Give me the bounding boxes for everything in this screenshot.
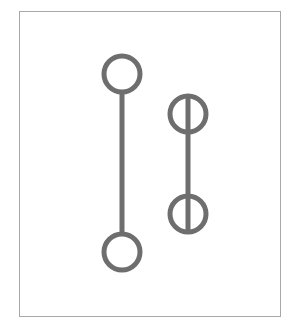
- diagram-canvas: [0, 0, 297, 333]
- left-symbol: [104, 56, 140, 270]
- right-symbol: [170, 96, 206, 232]
- left-bottom-circle: [104, 234, 140, 270]
- left-top-circle: [104, 56, 140, 92]
